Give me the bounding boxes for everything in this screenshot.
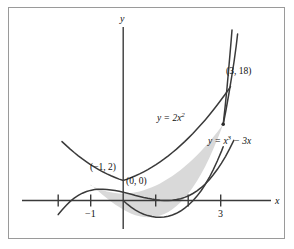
- curve-label-parabola-text: y = 2x: [157, 113, 181, 123]
- x-tick-label-3: 3: [218, 209, 223, 219]
- intersection-point-3-18: [221, 123, 225, 127]
- point-label-3-18: (3, 18): [226, 67, 251, 77]
- point-label-0-0: (0, 0): [126, 177, 147, 187]
- figure-container: y x −1 3 (−1, 2) (0, 0) (3, 18) y = 2x2 …: [0, 0, 294, 249]
- x-axis-label: x: [275, 196, 279, 206]
- curve-label-cubic-suffix: − 3x: [231, 136, 251, 146]
- curve-label-parabola: y = 2x2: [157, 112, 185, 124]
- curve-parabola: [62, 87, 231, 181]
- curve-label-parabola-exponent: 2: [181, 111, 185, 119]
- graph-canvas: [0, 0, 294, 249]
- y-axis-label: y: [120, 14, 124, 24]
- point-label-minus1-2: (−1, 2): [90, 163, 116, 173]
- curve-label-cubic: y = x3 − 3x: [208, 135, 251, 147]
- curve-label-cubic-text: y = x: [208, 136, 228, 146]
- curve-cubic-upper-extension: [223, 30, 232, 124]
- x-tick-label--1: −1: [85, 209, 96, 219]
